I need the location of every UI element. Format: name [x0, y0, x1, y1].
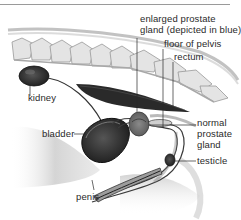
label-floor-of-pelvis: floor of pelvis: [164, 38, 221, 49]
enlarged-prostate: [129, 112, 149, 136]
label-kidney: kidney: [28, 92, 56, 103]
label-enlarged-prostate: enlarged prostate gland (depicted in blu…: [140, 13, 241, 35]
label-bladder: bladder: [42, 128, 74, 139]
label-testicle: testicle: [197, 155, 227, 166]
anatomy-diagram: enlarged prostate gland (depicted in blu…: [0, 0, 241, 220]
label-penis: penis: [76, 191, 99, 202]
label-rectum: rectum: [174, 51, 204, 62]
normal-prostate: [148, 120, 172, 127]
kidney: [19, 66, 49, 86]
label-normal-prostate: normal prostate gland: [197, 117, 232, 150]
testicle: [165, 154, 175, 166]
